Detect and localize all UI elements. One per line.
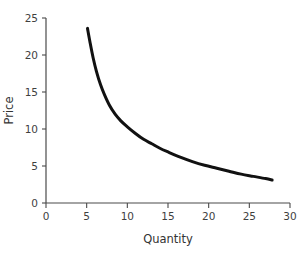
y-tick-label: 0 bbox=[31, 197, 38, 209]
x-tick-label: 15 bbox=[161, 210, 174, 222]
x-tick-label: 25 bbox=[243, 210, 256, 222]
y-tick-label: 15 bbox=[25, 86, 38, 98]
y-axis-title: Price bbox=[2, 96, 16, 124]
demand-curve-line bbox=[87, 28, 272, 180]
x-axis-title: Quantity bbox=[143, 232, 193, 246]
y-tick-label: 20 bbox=[25, 49, 38, 61]
y-tick-label: 25 bbox=[25, 12, 38, 24]
x-tick-label: 30 bbox=[283, 210, 296, 222]
x-tick-label: 20 bbox=[202, 210, 215, 222]
x-tick-label: 10 bbox=[121, 210, 134, 222]
x-axis-ticks bbox=[46, 203, 290, 208]
x-axis-tick-labels: 051015202530 bbox=[43, 210, 297, 222]
x-tick-label: 5 bbox=[83, 210, 90, 222]
x-tick-label: 0 bbox=[43, 210, 50, 222]
demand-curve-chart: 0510152025 051015202530 Price Quantity bbox=[0, 0, 301, 254]
y-axis-tick-labels: 0510152025 bbox=[25, 12, 38, 209]
y-tick-label: 5 bbox=[31, 160, 38, 172]
y-tick-label: 10 bbox=[25, 123, 38, 135]
chart-plot-area: 0510152025 051015202530 Price Quantity bbox=[0, 0, 301, 254]
